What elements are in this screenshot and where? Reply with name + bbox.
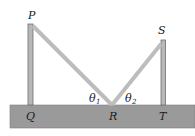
label-theta2-sub: 2 xyxy=(131,98,137,106)
label-q: Q xyxy=(26,110,35,123)
pole-pq xyxy=(28,24,33,105)
label-s: S xyxy=(158,24,166,37)
pole-st xyxy=(161,40,166,105)
label-theta2: θ xyxy=(125,92,132,105)
label-r: R xyxy=(108,110,117,123)
label-theta1-sub: 1 xyxy=(96,98,100,106)
ground xyxy=(10,105,195,128)
ray-p-to-r xyxy=(33,26,112,105)
ray-r-to-s xyxy=(112,44,161,105)
reflection-diagram: P S Q R T θ 1 θ 2 xyxy=(0,0,195,136)
label-theta1: θ xyxy=(89,92,96,105)
label-p: P xyxy=(27,9,36,22)
